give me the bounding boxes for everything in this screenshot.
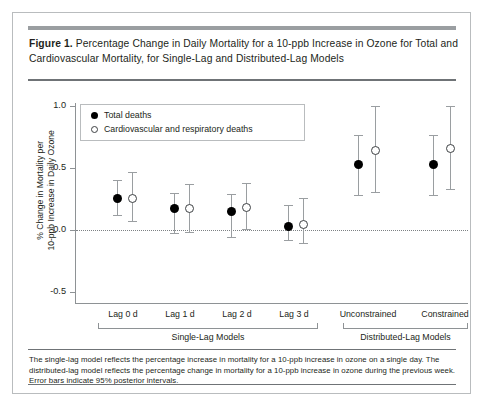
datapoint-total-unconstrained <box>354 160 363 169</box>
datapoint-cv-lag3 <box>299 220 308 229</box>
errorbar-cap-upper-cv-lag0 <box>128 172 137 173</box>
errorbar-cap-lower-total-lag0 <box>113 215 122 216</box>
x-tick-label-lag2: Lag 2 d <box>209 309 265 319</box>
errorbar-cap-upper-total-lag0 <box>113 180 122 181</box>
figure-footnote: The single-lag model reflects the percen… <box>29 355 456 387</box>
errorbar-cap-lower-cv-lag0 <box>128 221 137 222</box>
plot-area: % Change in Mortality per 10-ppb Increas… <box>13 83 472 333</box>
figure-card: Figure 1. Percentage Change in Daily Mor… <box>12 12 471 394</box>
errorbar-cap-upper-cv-unconstrained <box>371 106 380 107</box>
group-label-distributed-lag: Distributed-Lag Models <box>335 332 476 342</box>
errorbar-cap-upper-cv-lag3 <box>299 198 308 199</box>
top-divider <box>28 26 456 30</box>
y-axis-line <box>75 103 76 303</box>
y-axis-label: % Change in Mortality per 10-ppb Increas… <box>35 105 58 275</box>
errorbar-cap-lower-cv-lag3 <box>299 243 308 244</box>
figure-title-text: Percentage Change in Daily Mortality for… <box>29 38 458 64</box>
y-tick-mark-1.0 <box>70 106 75 107</box>
x-tick-label-lag3: Lag 3 d <box>266 309 322 319</box>
errorbar-cap-upper-total-lag1 <box>170 193 179 194</box>
errorbar-cap-lower-cv-lag2 <box>242 229 251 230</box>
datapoint-total-constrained <box>429 160 438 169</box>
errorbar-cap-lower-total-lag3 <box>284 240 293 241</box>
datapoint-cv-lag1 <box>185 204 194 213</box>
errorbar-cap-lower-cv-lag1 <box>185 232 194 233</box>
x-tick-label-constrained: Constrained <box>408 309 482 319</box>
figure-label: Figure 1. <box>29 38 73 49</box>
legend-label-cardiovascular-deaths: Cardiovascular and respiratory deaths <box>104 124 253 134</box>
datapoint-total-lag0 <box>113 194 122 203</box>
bottom-divider <box>28 384 456 385</box>
chart-legend: Total deaths Cardiovascular and respirat… <box>80 104 305 141</box>
y-tick-mark-0.0 <box>70 230 75 231</box>
filled-circle-icon <box>91 112 98 119</box>
legend-item-total-deaths: Total deaths <box>91 110 151 120</box>
x-tick-label-unconstrained: Unconstrained <box>331 309 405 319</box>
x-axis-line <box>75 303 468 304</box>
title-divider <box>28 79 456 81</box>
errorbar-cap-upper-total-unconstrained <box>354 135 363 136</box>
errorbar-cap-lower-total-lag2 <box>227 237 236 238</box>
errorbar-cap-upper-total-lag2 <box>227 194 236 195</box>
footnote-divider <box>28 349 456 350</box>
datapoint-cv-lag0 <box>128 194 137 203</box>
datapoint-cv-unconstrained <box>371 146 380 155</box>
errorbar-cap-upper-total-constrained <box>429 135 438 136</box>
errorbar-cap-upper-cv-lag2 <box>242 183 251 184</box>
errorbar-total-lag1 <box>174 193 175 233</box>
y-tick-label--0.5: -0.5 <box>32 286 66 296</box>
x-tick-label-lag1: Lag 1 d <box>152 309 208 319</box>
datapoint-cv-lag2 <box>242 203 251 212</box>
legend-label-total-deaths: Total deaths <box>104 110 151 120</box>
group-bracket-single-lag <box>98 323 318 329</box>
group-label-single-lag: Single-Lag Models <box>98 332 318 342</box>
x-tick-label-lag0: Lag 0 d <box>95 309 151 319</box>
zero-reference-line <box>76 230 468 231</box>
y-tick-label-1.0: 1.0 <box>32 100 66 110</box>
y-tick-label-0.0: 0.0 <box>32 224 66 234</box>
errorbar-cap-lower-total-lag1 <box>170 233 179 234</box>
errorbar-cap-lower-total-constrained <box>429 195 438 196</box>
errorbar-cap-upper-cv-constrained <box>446 106 455 107</box>
datapoint-total-lag3 <box>284 222 293 231</box>
datapoint-total-lag2 <box>227 207 236 216</box>
open-circle-icon <box>91 126 98 133</box>
y-tick-mark-0.5 <box>70 168 75 169</box>
y-tick-mark--0.5 <box>70 292 75 293</box>
y-tick-label-0.5: 0.5 <box>32 162 66 172</box>
errorbar-cap-upper-cv-lag1 <box>185 184 194 185</box>
errorbar-cap-lower-total-unconstrained <box>354 195 363 196</box>
legend-item-cardiovascular-deaths: Cardiovascular and respiratory deaths <box>91 124 253 134</box>
errorbar-cap-lower-cv-unconstrained <box>371 192 380 193</box>
errorbar-cap-lower-cv-constrained <box>446 189 455 190</box>
datapoint-cv-constrained <box>446 144 455 153</box>
figure-title: Figure 1. Percentage Change in Daily Mor… <box>29 37 459 66</box>
datapoint-total-lag1 <box>170 204 179 213</box>
errorbar-cap-upper-total-lag3 <box>284 205 293 206</box>
group-bracket-distributed-lag <box>343 323 468 329</box>
